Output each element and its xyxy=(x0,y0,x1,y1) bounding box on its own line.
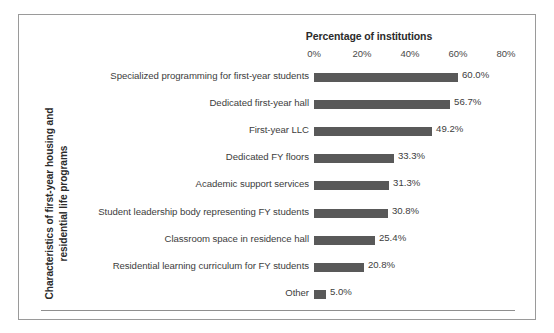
category-label: Classroom space in residence hall xyxy=(165,233,309,244)
bar-value-label: 33.3% xyxy=(398,150,425,161)
bar xyxy=(314,209,388,218)
bar-value-label: 5.0% xyxy=(330,286,352,297)
category-label: First-year LLC xyxy=(249,124,309,135)
bar xyxy=(314,236,375,245)
chart-row: Other5.0% xyxy=(19,282,537,309)
bar-value-label: 56.7% xyxy=(454,96,481,107)
plot-bottom-axis-rule xyxy=(41,310,515,311)
bar-value-label: 49.2% xyxy=(436,123,463,134)
chart-row: Dedicated FY floors33.3% xyxy=(19,146,537,173)
category-label: Academic support services xyxy=(196,178,309,189)
bar xyxy=(314,100,450,109)
bar xyxy=(314,181,389,190)
bar-value-label: 60.0% xyxy=(462,69,489,80)
chart-row: Residential learning curriculum for FY s… xyxy=(19,255,537,282)
bar-value-label: 20.8% xyxy=(368,259,395,270)
plot-area: Specialized programming for first-year s… xyxy=(19,65,537,310)
bar-value-label: 30.8% xyxy=(392,205,419,216)
category-label: Specialized programming for first-year s… xyxy=(110,70,309,81)
bar xyxy=(314,154,394,163)
x-axis-tick-label: 80% xyxy=(496,48,515,59)
bar xyxy=(314,127,432,136)
chart-row: Dedicated first-year hall56.7% xyxy=(19,92,537,119)
bar-value-label: 25.4% xyxy=(379,232,406,243)
category-label: Dedicated first-year hall xyxy=(209,97,309,108)
x-axis-tick-label: 20% xyxy=(352,48,371,59)
bar xyxy=(314,73,458,82)
category-label: Residential learning curriculum for FY s… xyxy=(113,260,309,271)
x-axis-tick-labels: 0%20%40%60%80% xyxy=(19,48,537,62)
y-axis-title-text: Characteristics of first-year housing an… xyxy=(43,89,70,319)
x-axis-title: Percentage of institutions xyxy=(239,30,499,42)
y-axis-title-line: residential life programs xyxy=(56,89,70,319)
chart-figure: Percentage of institutions 0%20%40%60%80… xyxy=(18,14,536,320)
x-axis-tick-label: 0% xyxy=(307,48,321,59)
category-label: Dedicated FY floors xyxy=(226,151,309,162)
chart-row: Classroom space in residence hall25.4% xyxy=(19,228,537,255)
category-label: Other xyxy=(285,287,309,298)
y-axis-title-line: Characteristics of first-year housing an… xyxy=(43,89,57,319)
bar xyxy=(314,263,364,272)
x-axis-tick-label: 60% xyxy=(448,48,467,59)
chart-row: Specialized programming for first-year s… xyxy=(19,65,537,92)
category-label: Student leadership body representing FY … xyxy=(98,206,309,217)
bar-value-label: 31.3% xyxy=(393,177,420,188)
y-axis-title: Characteristics of first-year housing an… xyxy=(41,75,71,305)
chart-row: Academic support services31.3% xyxy=(19,173,537,200)
chart-row: First-year LLC49.2% xyxy=(19,119,537,146)
chart-row: Student leadership body representing FY … xyxy=(19,201,537,228)
x-axis-tick-label: 40% xyxy=(400,48,419,59)
bar xyxy=(314,290,326,299)
